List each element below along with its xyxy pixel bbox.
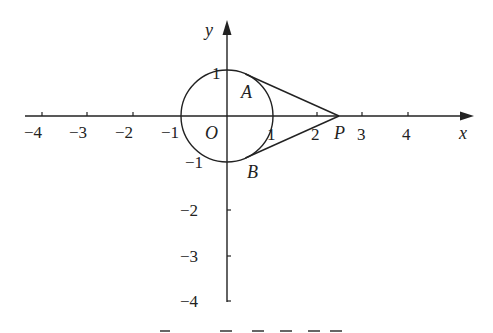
x-tick-label: 4 [402, 125, 411, 144]
x-tick-label: 3 [357, 125, 366, 144]
y-axis-arrow-icon [223, 20, 232, 35]
origin-label: O [205, 123, 218, 143]
y-axis-label: y [203, 20, 213, 40]
y-tick-label: −3 [180, 247, 198, 266]
x-axis-arrow-icon [460, 112, 474, 121]
y-axis: y 1 −1 −2 −3 −4 [180, 20, 232, 311]
y-tick-label: −2 [180, 201, 198, 220]
x-tick-label: −2 [115, 123, 133, 142]
point-b-label: B [247, 162, 258, 182]
x-axis-label: x [458, 123, 467, 143]
x-tick-label: −1 [161, 123, 179, 142]
x-axis: −4 −3 −2 −1 1 2 3 4 x [24, 112, 474, 145]
coordinate-diagram: −4 −3 −2 −1 1 2 3 4 x y 1 −1 −2 −3 −4 [0, 0, 493, 333]
y-tick-label: 1 [212, 64, 221, 83]
point-a-label: A [240, 82, 253, 102]
figure-caption [150, 329, 350, 333]
x-tick-label: −3 [69, 123, 87, 142]
y-tick-label: −1 [185, 153, 203, 172]
y-tick-label: −4 [180, 292, 199, 311]
point-p-label: P [333, 123, 345, 143]
x-tick-label: −4 [24, 123, 43, 142]
